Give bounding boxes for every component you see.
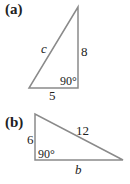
panel-a-horizontal-leg: 5: [49, 89, 56, 102]
panel-b-right-angle: 90°: [38, 148, 55, 160]
panel-a-hypotenuse: c: [41, 42, 47, 55]
panel-a-label: (a): [5, 2, 23, 17]
panel-a-right-angle: 90°: [60, 75, 77, 87]
panel-b-label: (b): [5, 115, 23, 130]
triangle-diagram: [0, 0, 130, 184]
panel-b-hypotenuse: 12: [76, 124, 89, 137]
panel-b-horizontal-leg: b: [75, 163, 82, 176]
panel-a-vertical-leg: 8: [81, 45, 88, 58]
panel-b-vertical-leg: 6: [27, 133, 34, 146]
